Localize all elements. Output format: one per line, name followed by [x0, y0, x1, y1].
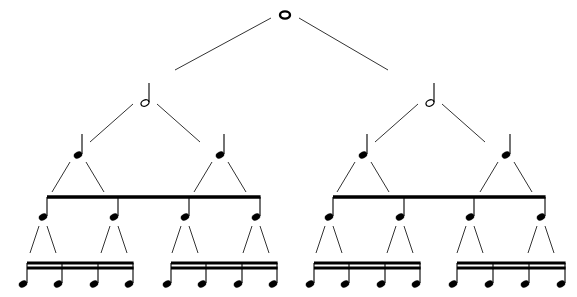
whole-note-icon: [280, 11, 290, 18]
connector-line: [175, 18, 271, 70]
connector-line: [480, 162, 498, 192]
connector-line: [86, 162, 104, 192]
connector-line: [457, 226, 466, 253]
connector-line: [404, 226, 413, 253]
connector-line: [371, 162, 389, 192]
connector-line: [228, 162, 246, 192]
connector-line: [47, 226, 56, 253]
connector-line: [442, 104, 485, 142]
connector-line: [260, 226, 269, 253]
connector-line: [194, 162, 212, 192]
connector-line: [337, 162, 355, 192]
connector-line: [90, 104, 133, 142]
diagram-canvas: [0, 0, 577, 297]
connector-line: [387, 226, 396, 253]
connector-line: [514, 162, 532, 192]
connector-line: [299, 18, 388, 70]
connector-line: [545, 226, 554, 253]
connector-line: [474, 226, 483, 253]
connector-line: [375, 104, 418, 142]
connector-line: [157, 104, 200, 142]
connector-line: [30, 226, 39, 253]
connector-line: [316, 226, 325, 253]
connector-line: [101, 226, 110, 253]
connector-line: [243, 226, 252, 253]
connector-line: [528, 226, 537, 253]
connector-line: [189, 226, 198, 253]
connector-line: [172, 226, 181, 253]
connector-line: [52, 162, 70, 192]
connector-line: [333, 226, 342, 253]
connector-line: [118, 226, 127, 253]
